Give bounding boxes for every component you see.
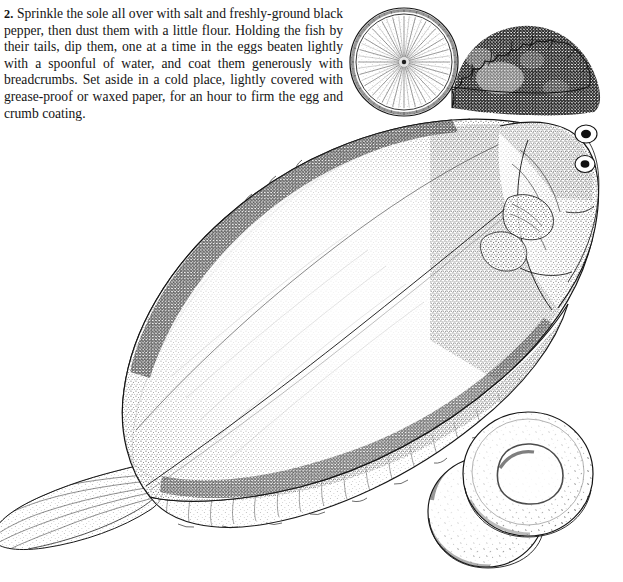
potato-cake-top [463,412,593,537]
fish-eye-upper [575,125,597,143]
fish-eye-lower [575,156,595,173]
step-number: 2. [4,7,14,21]
recipe-step-text: 2. Sprinkle the sole all over with salt … [4,6,343,122]
lemon-slice [350,8,458,116]
step-body: Sprinkle the sole all over with salt and… [4,6,343,121]
cookbook-page: 2. Sprinkle the sole all over with salt … [0,0,623,582]
